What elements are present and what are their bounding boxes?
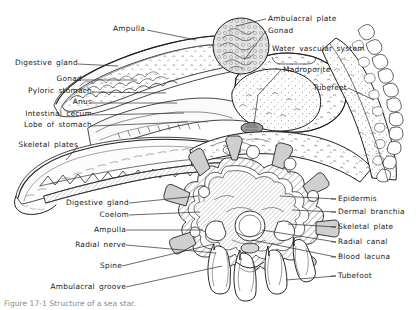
label-water-vascular-system: Water vascular system (272, 44, 365, 53)
label-dermal-branchia: Dermal branchia (338, 207, 405, 216)
label-pyloric-stomach: Pyloric stomach (0, 86, 92, 95)
label-radial-canal: Radial canal (338, 237, 388, 246)
label-coelom: Coelom (0, 210, 129, 219)
label-ambulacral-plate: Ambulacral plate (268, 14, 336, 23)
label-digestive-gland-lower: Digestive gland (0, 198, 129, 207)
label-gonad-right: Gonad (268, 26, 293, 35)
label-epidermis: Epidermis (338, 194, 377, 203)
label-ampulla-upper: Ampulla (113, 24, 145, 33)
label-madroporite: Madroporite (283, 65, 331, 74)
label-anus: Anus (0, 97, 92, 106)
label-ampulla-lower: Ampulla (0, 225, 126, 234)
label-spine: Spine (0, 261, 122, 270)
label-skeletal-plate: Skeletal plate (338, 222, 393, 231)
label-ambulacral-groove: Ambulacral groove (0, 282, 126, 291)
label-blood-lacuna: Blood lacuna (338, 252, 390, 261)
label-digestive-gland-upper: Digestive gland (0, 58, 78, 67)
label-skeletal-plates: Skeletal plates (0, 140, 78, 149)
figure-caption: Figure 17-1 Structure of a sea star. (4, 299, 418, 310)
label-tubefoot: Tubefoot (338, 271, 372, 280)
label-tubefeet: Tubefeet (313, 83, 347, 92)
label-radial-nerve: Radial nerve (0, 240, 126, 249)
label-lobe-of-stomach: Lobe of stomach (0, 120, 92, 129)
label-intestinal-cecum: Intestinal cecum (0, 109, 92, 118)
label-gonad-upper: Gonad (0, 74, 82, 83)
anatomy-figure: Digestive gland Gonad Pyloric stomach An… (0, 0, 420, 310)
